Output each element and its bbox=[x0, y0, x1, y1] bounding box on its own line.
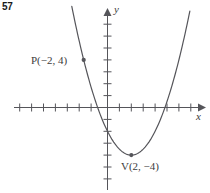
point-label-V: V(2, −4) bbox=[121, 160, 159, 172]
point-marker-V bbox=[129, 153, 133, 157]
coordinate-plane-graph bbox=[0, 0, 210, 193]
y-axis-label: y bbox=[114, 3, 119, 15]
parabola-curve bbox=[72, 6, 190, 155]
point-label-P: P(−2, 4) bbox=[31, 54, 67, 66]
point-marker-P bbox=[82, 58, 86, 62]
y-axis-arrowhead bbox=[104, 8, 112, 16]
figure-container: 57 bbox=[0, 0, 210, 193]
x-axis-label: x bbox=[196, 110, 201, 122]
